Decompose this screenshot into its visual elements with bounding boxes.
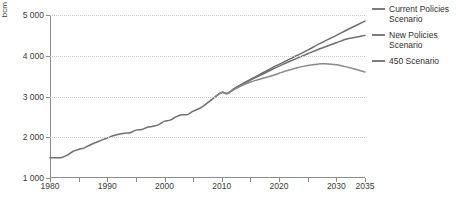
legend-line-icon: [372, 4, 385, 13]
y-tick: [46, 97, 50, 98]
y-tick: [46, 137, 50, 138]
legend-label-line2: Scenario: [389, 14, 423, 24]
legend-label-new-policies: New Policies Scenario: [389, 30, 438, 50]
x-tick-label: 2035: [345, 181, 385, 191]
y-tick-label: 5 000: [0, 10, 44, 20]
legend-label-line1: 450 Scenario: [389, 56, 439, 66]
chart-legend: Current Policies Scenario New Policies S…: [372, 4, 456, 72]
y-tick-label: 2 000: [0, 132, 44, 142]
legend-item-450-scenario: 450 Scenario: [372, 56, 456, 66]
y-tick: [46, 56, 50, 57]
y-axis-unit-text: bcm: [0, 2, 9, 42]
gas-demand-line-chart: bcm 1 0002 0003 0004 0005 00019801990200…: [0, 0, 456, 201]
legend-item-new-policies: New Policies Scenario: [372, 30, 456, 50]
y-tick-label: 3 000: [0, 92, 44, 102]
series-line: [216, 64, 365, 96]
legend-label-line2: Scenario: [389, 40, 423, 50]
legend-label-450-scenario: 450 Scenario: [389, 56, 439, 66]
x-tick-minor: [250, 178, 251, 182]
y-axis-unit-label: bcm: [0, 0, 7, 6]
plot-area: 1 0002 0003 0004 0005 000198019902000201…: [50, 15, 365, 178]
y-tick-label: 4 000: [0, 51, 44, 61]
legend-label-current-policies: Current Policies Scenario: [389, 4, 449, 24]
y-tick: [46, 15, 50, 16]
legend-line-icon: [372, 56, 385, 65]
x-tick-label: 2020: [259, 181, 299, 191]
legend-item-current-policies: Current Policies Scenario: [372, 4, 456, 24]
x-tick-label: 2010: [202, 181, 242, 191]
legend-line-icon: [372, 30, 385, 39]
legend-label-line1: New Policies: [389, 30, 438, 40]
x-tick-label: 1990: [87, 181, 127, 191]
gridline-y: [50, 137, 365, 139]
x-tick-minor: [193, 178, 194, 182]
gridline-y: [50, 97, 365, 99]
gridline-y: [50, 15, 365, 17]
x-tick-minor: [308, 178, 309, 182]
x-tick-minor: [79, 178, 80, 182]
x-tick-label: 1980: [30, 181, 70, 191]
x-tick-label: 2000: [145, 181, 185, 191]
gridline-y: [50, 56, 365, 58]
legend-label-line1: Current Policies: [389, 4, 449, 14]
x-tick-minor: [136, 178, 137, 182]
